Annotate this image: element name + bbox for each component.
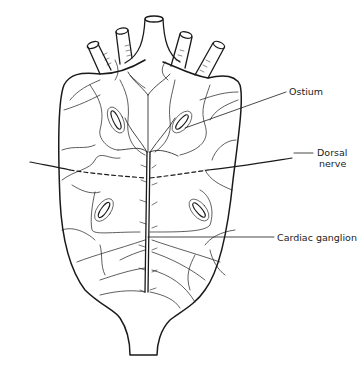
leader-lines <box>148 92 313 237</box>
arteries <box>86 16 225 78</box>
label-dorsal-nerve-line2: nerve <box>319 158 346 169</box>
label-cardiac-ganglion: Cardiac ganglion <box>277 232 357 243</box>
label-ostium: Ostium <box>289 86 323 97</box>
heart-outline <box>59 60 242 355</box>
ostium-lower-right <box>185 196 212 225</box>
heart-diagram <box>0 0 359 371</box>
cardiac-nerve-trunk <box>145 152 150 292</box>
ostia <box>91 104 213 224</box>
dorsal-nerve <box>30 158 292 178</box>
ostium-upper-left <box>104 104 129 135</box>
ostium-lower-left <box>91 195 117 224</box>
label-dorsal-nerve-line1: Dorsal <box>317 147 347 158</box>
